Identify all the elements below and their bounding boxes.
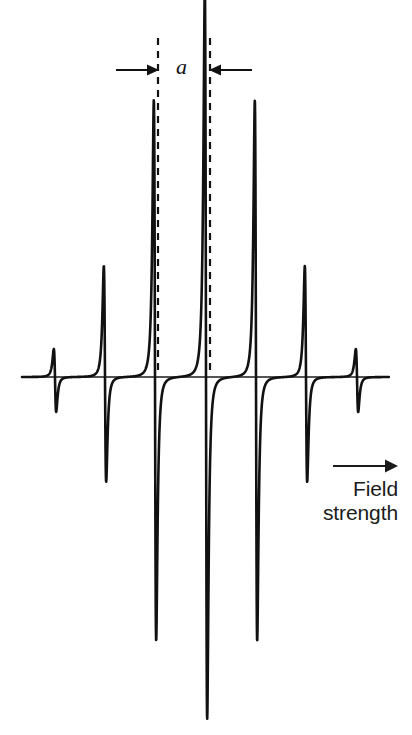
field-strength-arrow-icon <box>333 460 398 473</box>
esr-spectrum-figure: a Field strength <box>0 0 412 735</box>
coupling-arrow-left <box>116 65 159 76</box>
field-strength-label-line1: Field <box>323 477 398 501</box>
coupling-arrow-right <box>209 65 252 76</box>
field-strength-axis-label: Field strength <box>323 477 398 524</box>
spectrum-trace <box>22 0 389 719</box>
spectrum-canvas <box>0 0 412 735</box>
coupling-constant-label: a <box>176 54 187 80</box>
field-strength-label-line2: strength <box>323 501 398 525</box>
